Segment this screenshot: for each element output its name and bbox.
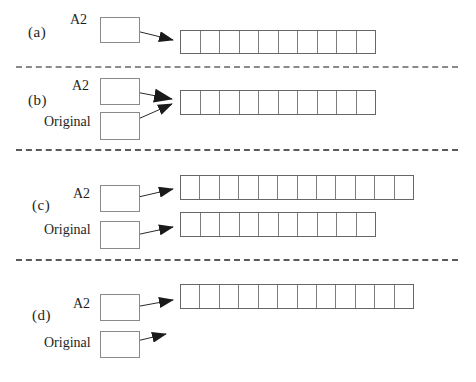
array-cell bbox=[239, 176, 258, 199]
dashed-separator-2 bbox=[16, 149, 458, 151]
panel-d-label: (d) bbox=[32, 307, 51, 324]
panel-b-pointer-a2-label: A2 bbox=[72, 78, 89, 94]
array-cell bbox=[259, 176, 278, 199]
array-cell bbox=[375, 285, 394, 308]
panel-b-array bbox=[180, 90, 376, 115]
array-cell bbox=[356, 285, 375, 308]
array-cell bbox=[239, 285, 258, 308]
array-cell bbox=[181, 91, 201, 114]
array-cell bbox=[298, 285, 317, 308]
array-cell bbox=[318, 213, 338, 236]
array-cell bbox=[200, 176, 219, 199]
array-cell bbox=[181, 176, 200, 199]
dashed-separator-1 bbox=[16, 66, 458, 68]
panel-d-pointer-original-label: Original bbox=[44, 335, 91, 351]
panel-a-pointer-a2-box bbox=[100, 17, 140, 43]
array-cell bbox=[279, 31, 299, 53]
panel-c-array-old bbox=[180, 212, 376, 237]
array-cell bbox=[357, 31, 376, 53]
array-cell bbox=[298, 31, 318, 53]
panel-d-pointer-a2-label: A2 bbox=[73, 296, 90, 312]
array-cell bbox=[220, 176, 239, 199]
array-cell bbox=[318, 91, 338, 114]
array-cell bbox=[259, 31, 279, 53]
array-cell bbox=[337, 91, 357, 114]
array-cell bbox=[220, 91, 240, 114]
panel-c-pointer-a2-box bbox=[100, 185, 140, 212]
array-cell bbox=[357, 91, 376, 114]
panel-a-array bbox=[180, 30, 376, 54]
array-cell bbox=[240, 31, 260, 53]
array-cell bbox=[220, 213, 240, 236]
panel-c-pointer-original-label: Original bbox=[44, 222, 91, 238]
panel-c-array-new bbox=[180, 175, 414, 200]
panel-c-label: (c) bbox=[32, 197, 50, 214]
panel-a-pointer-a2-label: A2 bbox=[70, 12, 87, 28]
array-cell bbox=[259, 213, 279, 236]
array-cell bbox=[181, 285, 200, 308]
array-cell bbox=[220, 31, 240, 53]
panel-b-label: (b) bbox=[28, 92, 47, 109]
array-cell bbox=[220, 285, 239, 308]
panel-d-array bbox=[180, 284, 414, 309]
array-cell bbox=[317, 176, 336, 199]
array-cell bbox=[278, 176, 297, 199]
array-cell bbox=[181, 213, 201, 236]
array-cell bbox=[336, 285, 355, 308]
panel-c-pointer-original-box bbox=[100, 221, 140, 249]
array-cell bbox=[336, 176, 355, 199]
panel-a-label: (a) bbox=[28, 24, 46, 41]
array-cell bbox=[317, 285, 336, 308]
panel-b-pointer-original-label: Original bbox=[44, 114, 91, 130]
array-cell bbox=[181, 31, 201, 53]
array-cell bbox=[279, 213, 299, 236]
array-cell bbox=[318, 31, 338, 53]
panel-b-pointer-original-box bbox=[100, 112, 140, 140]
panel-d-pointer-a2-box bbox=[100, 294, 140, 321]
array-cell bbox=[259, 91, 279, 114]
array-cell bbox=[395, 285, 413, 308]
array-cell bbox=[201, 91, 221, 114]
array-cell bbox=[375, 176, 394, 199]
array-cell bbox=[201, 213, 221, 236]
array-cell bbox=[356, 176, 375, 199]
dashed-separator-3 bbox=[16, 259, 458, 261]
array-cell bbox=[259, 285, 278, 308]
array-cell bbox=[240, 91, 260, 114]
array-cell bbox=[298, 213, 318, 236]
array-cell bbox=[357, 213, 376, 236]
array-cell bbox=[201, 31, 221, 53]
array-cell bbox=[279, 91, 299, 114]
panel-b-pointer-a2-box bbox=[100, 78, 140, 105]
array-cell bbox=[337, 213, 357, 236]
panel-c-pointer-a2-label: A2 bbox=[73, 186, 90, 202]
array-cell bbox=[200, 285, 219, 308]
array-cell bbox=[298, 176, 317, 199]
panel-d-pointer-original-box bbox=[100, 331, 140, 358]
figure-canvas: (a) A2 (b) A2 Original (c) A2 Original (… bbox=[0, 0, 476, 382]
array-cell bbox=[395, 176, 413, 199]
array-cell bbox=[278, 285, 297, 308]
array-cell bbox=[298, 91, 318, 114]
array-cell bbox=[337, 31, 357, 53]
array-cell bbox=[240, 213, 260, 236]
